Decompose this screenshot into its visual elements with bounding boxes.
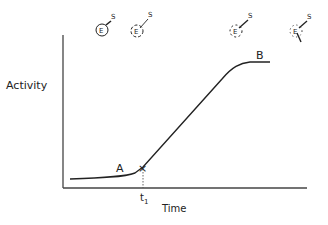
svg-text:S: S (307, 13, 312, 21)
enzyme-state-3-icon: E S (230, 12, 253, 37)
point-label-b: B (256, 49, 264, 62)
svg-text:E: E (134, 28, 138, 36)
svg-text:S: S (111, 13, 116, 21)
activity-diagram: × Activity Time A B t1 E S E S E S E S (0, 0, 328, 225)
svg-text:E: E (99, 27, 103, 35)
svg-text:S: S (148, 11, 153, 19)
enzyme-state-2-icon: E S (131, 11, 153, 37)
enzyme-state-4-icon: E S (290, 13, 312, 42)
enzyme-state-1-icon: E S (96, 13, 116, 36)
t1-label: t1 (140, 192, 148, 206)
x-axis-label: Time (161, 203, 186, 214)
y-axis-label: Activity (6, 79, 48, 92)
svg-text:E: E (293, 28, 297, 36)
point-label-a: A (116, 162, 124, 175)
cross-marker: × (138, 162, 147, 175)
svg-text:S: S (248, 12, 253, 20)
svg-text:E: E (233, 28, 237, 36)
t1-subscript: 1 (144, 198, 148, 206)
activity-curve (70, 62, 270, 179)
